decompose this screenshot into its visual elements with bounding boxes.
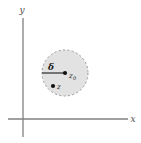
figure-container: x y δ z 0 z — [0, 0, 141, 143]
interior-point — [51, 84, 55, 88]
interior-point-label: z — [56, 83, 61, 91]
diagram-canvas: x y δ z 0 z — [0, 0, 141, 143]
y-axis-label: y — [18, 5, 25, 15]
x-axis-label: x — [130, 114, 135, 124]
delta-label: δ — [47, 62, 54, 72]
center-point — [63, 71, 67, 75]
